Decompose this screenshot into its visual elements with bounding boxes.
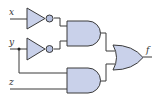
not-gate-2-bubble xyxy=(46,46,53,53)
junction-dot-y xyxy=(18,48,21,51)
not-gate-1 xyxy=(27,8,53,29)
input-label-y: y xyxy=(9,38,14,47)
not-gate-1-bubble xyxy=(46,15,53,22)
wire-not1-to-and1 xyxy=(54,18,67,26)
and-gate-2 xyxy=(67,68,101,93)
logic-circuit-diagram xyxy=(0,0,161,102)
wire-not2-to-and1 xyxy=(54,41,67,49)
input-label-x: x xyxy=(9,8,14,17)
input-label-z: z xyxy=(9,78,14,87)
not-gate-1-body xyxy=(27,8,45,29)
not-gate-2 xyxy=(27,38,53,60)
wire-y-to-and2 xyxy=(19,49,67,73)
and-gate-1 xyxy=(67,21,100,46)
not-gate-2-body xyxy=(27,38,45,60)
or-gate xyxy=(113,45,143,70)
output-label-f: f xyxy=(146,46,149,55)
wire-and2-to-or xyxy=(100,64,115,81)
wire-and1-to-or xyxy=(100,33,115,51)
